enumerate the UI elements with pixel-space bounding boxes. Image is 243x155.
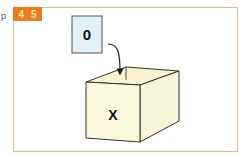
variable-box-label: X [108,107,118,123]
arrow-down-curved-icon [108,44,120,72]
value-card-label: 0 [83,26,91,43]
value-card: 0 [72,16,102,53]
assignment-diagram: 0 X [0,0,243,155]
variable-box: X [86,67,179,142]
